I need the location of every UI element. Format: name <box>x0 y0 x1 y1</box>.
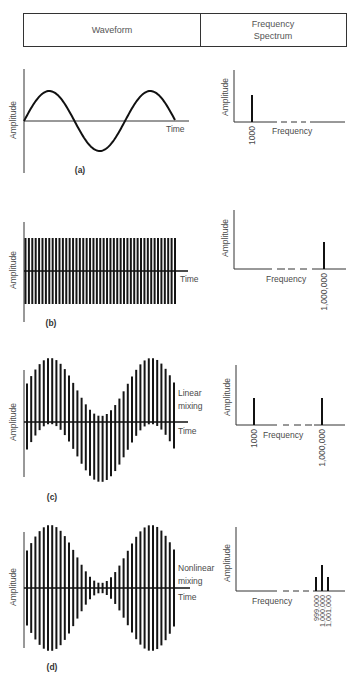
freq-tick-label: 1,001,000 <box>324 595 333 627</box>
panel-label-a: (a) <box>75 165 86 175</box>
frequency-label: Frequency <box>272 126 313 136</box>
panel-label-c: (c) <box>47 492 58 502</box>
spectrum-amplitude-label: Amplitude <box>220 78 230 116</box>
frequency-label: Frequency <box>263 430 304 440</box>
freq-tick-label: 1000 <box>249 429 259 448</box>
waveform-spectrum-figure: Waveform Frequency Spectrum Amplitude Ti… <box>0 0 362 682</box>
mixing-note-line2: mixing <box>178 401 203 411</box>
spectrum-amplitude-label: Amplitude <box>222 378 232 416</box>
spectrum-amplitude-label: Amplitude <box>220 219 230 257</box>
spectrum-amplitude-label: Amplitude <box>222 544 232 582</box>
mixing-note-line1: Nonlinear <box>178 563 215 573</box>
header-waveform: Waveform <box>92 25 133 35</box>
time-label: Time <box>180 274 199 284</box>
time-label: Time <box>166 124 185 134</box>
amplitude-label: Amplitude <box>8 568 18 606</box>
panel-label-d: (d) <box>47 662 58 672</box>
freq-tick-label: 1,000,000 <box>317 429 327 467</box>
header-spectrum-line1: Frequency <box>252 19 295 29</box>
amplitude-label: Amplitude <box>8 251 18 289</box>
time-label: Time <box>178 426 197 436</box>
frequency-label: Frequency <box>252 596 293 606</box>
amplitude-label: Amplitude <box>8 403 18 441</box>
freq-tick-label: 1000 <box>247 126 257 145</box>
mixing-note-line2: mixing <box>178 576 203 586</box>
freq-tick-label: 1,000,000 <box>319 273 329 311</box>
mixing-note-line1: Linear <box>178 388 202 398</box>
header-spectrum-line2: Spectrum <box>254 31 293 41</box>
frequency-label: Frequency <box>266 274 307 284</box>
amplitude-label: Amplitude <box>8 101 18 139</box>
time-label: Time <box>178 592 197 602</box>
panel-label-b: (b) <box>46 318 57 328</box>
